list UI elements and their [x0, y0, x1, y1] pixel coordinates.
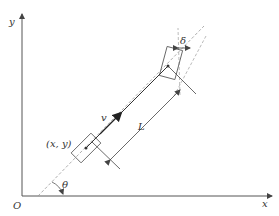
y-axis-label: y — [9, 17, 15, 27]
wheelbase-dimension-arrow — [110, 90, 180, 160]
heading-centerline — [38, 26, 204, 196]
theta-label: θ — [62, 180, 68, 190]
wheelbase-label: L — [138, 122, 145, 132]
steering-angle-label: δ — [180, 36, 186, 46]
x-axis-label: x — [262, 199, 268, 209]
diagram-canvas — [0, 0, 279, 216]
rear-position-label: (x, y) — [46, 139, 71, 149]
bicycle-model-diagram: y x O θ (x, y) v L δ — [0, 0, 279, 216]
front-perpendicular-tick — [168, 66, 196, 94]
vehicle-body-line — [86, 66, 168, 148]
origin-label: O — [13, 201, 21, 211]
velocity-label: v — [101, 113, 107, 123]
rear-perpendicular-tick — [92, 142, 120, 169]
